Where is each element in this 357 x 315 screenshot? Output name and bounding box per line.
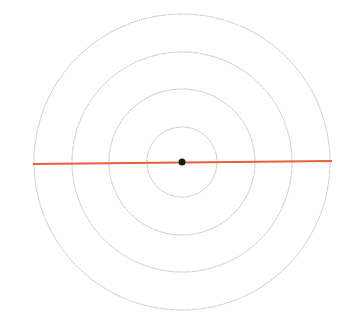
center-dot: [179, 159, 186, 166]
concentric-circles-diagram: [0, 0, 357, 315]
